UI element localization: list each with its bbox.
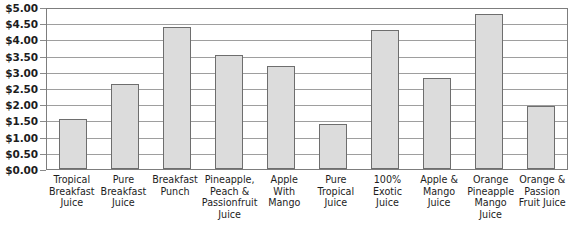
bar-slot — [99, 9, 151, 169]
x-tick-label: Orange & Passion Fruit Juice — [516, 172, 568, 209]
x-tick-label: Apple & Mango Juice — [413, 172, 465, 209]
bar-slot — [47, 9, 99, 169]
bar[interactable] — [527, 106, 555, 169]
bar[interactable] — [423, 78, 451, 169]
bar[interactable] — [163, 27, 191, 169]
y-tick-label: $3.00 — [5, 67, 38, 79]
y-tick-label: $2.00 — [5, 99, 38, 111]
bar[interactable] — [371, 30, 399, 169]
bar[interactable] — [111, 84, 139, 169]
bar[interactable] — [215, 55, 243, 169]
bar-chart: $5.00$4.50$4.00$3.50$3.00$2.50$2.00$1.50… — [0, 0, 580, 228]
x-tick-label: Pure Tropical Juice — [310, 172, 362, 209]
bar-slot — [203, 9, 255, 169]
bars-layer — [47, 9, 567, 169]
bar-slot — [359, 9, 411, 169]
x-axis: Tropical Breakfast JuicePure Breakfast J… — [46, 172, 568, 220]
x-tick-label: Breakfast Punch — [149, 172, 201, 197]
y-axis: $5.00$4.50$4.00$3.50$3.00$2.50$2.00$1.50… — [0, 8, 46, 170]
y-tick-label: $1.00 — [5, 132, 38, 144]
y-tick-label: $4.50 — [5, 18, 38, 30]
y-tick-label: $4.00 — [5, 34, 38, 46]
x-tick-label: Apple With Mango — [258, 172, 310, 209]
y-tick-mark — [40, 170, 46, 171]
bar-slot — [411, 9, 463, 169]
plot-area — [46, 8, 568, 170]
y-tick-label: $2.50 — [5, 83, 38, 95]
y-tick-label: $1.50 — [5, 115, 38, 127]
bar[interactable] — [59, 119, 87, 169]
bar[interactable] — [267, 66, 295, 169]
bar-slot — [515, 9, 567, 169]
bar-slot — [255, 9, 307, 169]
x-tick-label: 100% Exotic Juice — [362, 172, 414, 209]
bar[interactable] — [475, 14, 503, 169]
x-tick-label: Pineapple, Peach & Passionfruit Juice — [201, 172, 259, 220]
source-note — [6, 219, 306, 228]
bar-slot — [307, 9, 359, 169]
y-tick-label: $0.50 — [5, 148, 38, 160]
bar-slot — [151, 9, 203, 169]
bar[interactable] — [319, 124, 347, 169]
y-tick-label: $5.00 — [5, 2, 38, 14]
y-tick-label: $0.00 — [5, 164, 38, 176]
x-tick-label: Orange Pineapple Mango Juice — [465, 172, 517, 220]
bar-slot — [463, 9, 515, 169]
x-tick-label: Pure Breakfast Juice — [98, 172, 150, 209]
x-tick-label: Tropical Breakfast Juice — [46, 172, 98, 209]
y-tick-label: $3.50 — [5, 51, 38, 63]
